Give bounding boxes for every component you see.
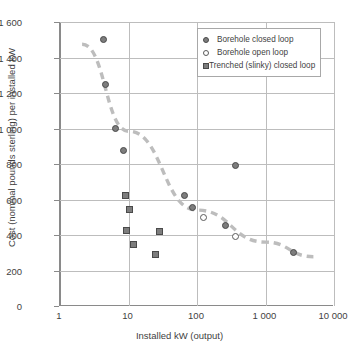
data-point bbox=[200, 214, 207, 221]
y-axis-tick-label: 1 000 bbox=[0, 123, 22, 134]
y-axis-tick-label: 200 bbox=[6, 265, 22, 276]
chart-figure: Cost (nominal pounds sterling) per insta… bbox=[0, 0, 359, 352]
y-axis-tick-mark bbox=[54, 58, 59, 59]
y-axis-tick-label: 400 bbox=[6, 230, 22, 241]
data-point bbox=[181, 192, 188, 199]
x-axis-title: Installed kW (output) bbox=[0, 330, 359, 341]
x-axis-tick-label: 1 000 bbox=[253, 310, 277, 321]
data-point bbox=[126, 206, 133, 213]
y-axis-tick-mark bbox=[54, 235, 59, 236]
filled-circle-icon bbox=[203, 37, 217, 43]
y-axis-tick-mark bbox=[54, 129, 59, 130]
gridline-horizontal bbox=[60, 200, 334, 201]
y-axis-tick-label: 800 bbox=[6, 159, 22, 170]
gridline-horizontal bbox=[60, 164, 334, 165]
data-point bbox=[130, 241, 137, 248]
x-axis-tick-label: 1 bbox=[56, 310, 61, 321]
y-axis-tick-mark bbox=[54, 164, 59, 165]
y-axis-tick-mark bbox=[54, 200, 59, 201]
chart-legend: Borehole closed loop Borehole open loop … bbox=[197, 28, 321, 77]
gridline-horizontal bbox=[60, 22, 334, 23]
legend-item-trenched-slinky-closed-loop: Trenched (slinky) closed loop bbox=[203, 59, 315, 72]
legend-item-borehole-closed-loop: Borehole closed loop bbox=[203, 33, 315, 46]
legend-label: Borehole open loop bbox=[217, 48, 288, 57]
gridline-horizontal bbox=[60, 93, 334, 94]
data-point bbox=[152, 251, 159, 258]
x-axis-tick-label: 100 bbox=[188, 310, 204, 321]
y-axis-tick-label: 0 bbox=[17, 301, 22, 312]
data-point bbox=[120, 147, 127, 154]
y-axis-tick-label: 1 600 bbox=[0, 17, 22, 28]
legend-label: Trenched (slinky) closed loop bbox=[209, 61, 315, 70]
data-point bbox=[189, 204, 196, 211]
y-axis-tick-mark bbox=[54, 271, 59, 272]
gridline-horizontal bbox=[60, 235, 334, 236]
y-axis-tick-mark bbox=[54, 306, 59, 307]
data-point bbox=[123, 227, 130, 234]
x-axis-tick-label: 10 bbox=[122, 310, 133, 321]
gridline-horizontal bbox=[60, 271, 334, 272]
x-axis-tick-label: 10 000 bbox=[318, 310, 347, 321]
data-point bbox=[156, 228, 163, 235]
legend-item-borehole-open-loop: Borehole open loop bbox=[203, 46, 315, 59]
y-axis-tick-label: 600 bbox=[6, 194, 22, 205]
legend-label: Borehole closed loop bbox=[217, 35, 293, 44]
y-axis-tick-label: 1 200 bbox=[0, 88, 22, 99]
open-circle-icon bbox=[203, 50, 217, 56]
gridline-vertical bbox=[334, 22, 335, 306]
y-axis-tick-mark bbox=[54, 22, 59, 23]
gridline-horizontal bbox=[60, 129, 334, 130]
y-axis-tick-label: 1 400 bbox=[0, 52, 22, 63]
data-point bbox=[102, 81, 109, 88]
data-point bbox=[122, 192, 129, 199]
y-axis-tick-mark bbox=[54, 93, 59, 94]
